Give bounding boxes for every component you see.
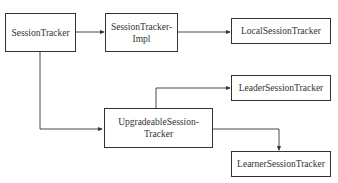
- node-leader-session-tracker: LeaderSessionTracker: [231, 75, 331, 101]
- node-label: SessionTracker: [11, 27, 69, 39]
- node-session-tracker-impl: SessionTracker- Impl: [105, 13, 178, 52]
- node-local-session-tracker: LocalSessionTracker: [231, 18, 331, 44]
- edge-upgradeable-to-leader: [156, 88, 230, 108]
- node-label: LearnerSessionTracker: [237, 158, 325, 170]
- edge-tracker-to-upgradeable: [40, 52, 102, 129]
- node-label: UpgradeableSession- Tracker: [118, 116, 199, 140]
- node-label: LocalSessionTracker: [241, 25, 321, 37]
- node-session-tracker: SessionTracker: [5, 13, 76, 52]
- node-label: LeaderSessionTracker: [239, 82, 324, 94]
- node-label: SessionTracker- Impl: [111, 21, 172, 45]
- edge-upgradeable-to-learner: [212, 129, 279, 150]
- node-upgradeable-session-tracker: UpgradeableSession- Tracker: [104, 108, 213, 148]
- node-learner-session-tracker: LearnerSessionTracker: [231, 151, 331, 177]
